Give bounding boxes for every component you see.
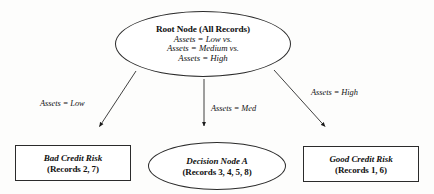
edge-label-assets-low: Assets = Low [40,99,85,108]
leaf-node-good-credit-risk: Good Credit Risk (Records 1, 6) [303,146,419,182]
edge-line-low [100,71,137,127]
leaf-node-good-credit-risk-records: (Records 1, 6) [335,165,387,175]
decision-node-a-title: Decision Node A [186,156,247,166]
edge-label-assets-high: Assets = High [311,88,358,97]
edge-line-high [274,70,325,127]
leaf-node-bad-credit-risk-title: Bad Credit Risk [44,153,102,163]
decision-node-a-records: (Records 3, 4, 5, 8) [182,167,251,177]
root-node: Root Node (All Records) Assets = Low vs.… [115,11,291,77]
root-node-condition-3: Assets = High [178,54,227,63]
edge-label-assets-med: Assets = Med [211,104,256,113]
decision-tree-diagram: Root Node (All Records) Assets = Low vs.… [0,0,434,194]
decision-node-a: Decision Node A (Records 3, 4, 5, 8) [148,142,286,190]
leaf-node-bad-credit-risk: Bad Credit Risk (Records 2, 7) [15,145,131,181]
leaf-node-bad-credit-risk-records: (Records 2, 7) [47,164,99,174]
leaf-node-good-credit-risk-title: Good Credit Risk [329,154,392,164]
